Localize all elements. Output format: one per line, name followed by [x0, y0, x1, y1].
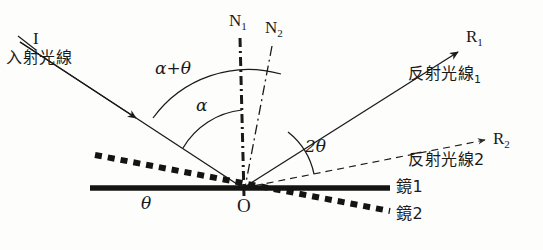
reflected-ray-1-name: 反射光線1 — [408, 66, 482, 85]
normal-n2-label-text: N — [265, 18, 277, 37]
reflected-ray-1-label: R1 — [466, 28, 483, 48]
incident-ray-label: I — [33, 30, 39, 47]
mirror-1-label: 鏡1 — [396, 179, 423, 195]
normal-n1-label-subscript: 1 — [241, 20, 247, 32]
reflected-ray-2-label-subscript: 2 — [504, 138, 510, 150]
reflected-ray-2-label: R2 — [493, 130, 510, 150]
reflected-ray-1-name-text: 反射光線 — [408, 64, 474, 83]
normal-n2-line — [244, 46, 272, 193]
normal-n1-label-text: N — [229, 11, 241, 30]
optics-diagram: I 入射光線 N1 N2 R1 反射光線1 R2 反射光線2 α+θ α 2θ … — [0, 0, 543, 250]
origin-label: O — [237, 196, 251, 215]
angle-label-theta: θ — [141, 195, 151, 212]
normal-n2-label-subscript: 2 — [277, 27, 283, 39]
reflected-ray-2-name: 反射光線2 — [408, 152, 485, 168]
reflected-ray-2-label-text: R — [493, 129, 504, 148]
reflected-ray-1-label-subscript: 1 — [477, 36, 483, 48]
angle-label-alpha-plus-theta: α+θ — [155, 60, 191, 77]
normal-n1-line — [240, 38, 244, 196]
angle-label-two-theta: 2θ — [305, 138, 326, 155]
reflected-ray-1-name-subscript: 1 — [474, 73, 482, 86]
reflected-ray-1-label-text: R — [466, 27, 477, 46]
mirror-2-label: 鏡2 — [396, 206, 423, 222]
normal-n1-label: N1 — [229, 12, 247, 32]
incident-ray-name: 入射光線 — [6, 50, 72, 66]
angle-arc-alpha — [183, 110, 242, 148]
angle-label-alpha: α — [196, 97, 207, 114]
normal-n2-label: N2 — [265, 19, 283, 39]
